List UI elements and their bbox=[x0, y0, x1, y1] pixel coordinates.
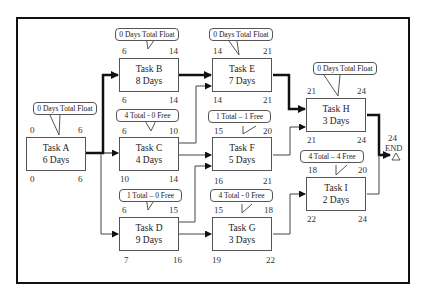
task-name: Task C bbox=[136, 142, 163, 154]
late-start-task-h: 21 bbox=[307, 135, 316, 145]
late-finish-task-d: 16 bbox=[173, 255, 182, 265]
early-finish-task-b: 14 bbox=[169, 46, 178, 56]
task-node-h[interactable]: Task H 3 Days bbox=[306, 98, 366, 132]
late-finish-task-c: 14 bbox=[169, 174, 178, 184]
task-name: Task G bbox=[228, 222, 255, 234]
late-finish-task-f: 21 bbox=[263, 176, 272, 186]
early-start-task-c: 6 bbox=[122, 126, 127, 136]
late-finish-task-a: 6 bbox=[78, 174, 83, 184]
end-time: 24 bbox=[388, 133, 397, 143]
late-start-task-a: 0 bbox=[30, 174, 35, 184]
early-start-task-d: 6 bbox=[122, 205, 127, 215]
task-duration: 2 Days bbox=[323, 194, 350, 206]
task-duration: 3 Days bbox=[229, 234, 256, 246]
task-name: Task A bbox=[43, 142, 70, 154]
late-finish-task-h: 24 bbox=[357, 135, 366, 145]
task-duration: 9 Days bbox=[136, 234, 163, 246]
float-callout-task-g: 4 Total - 0 Free bbox=[210, 189, 273, 202]
float-callout-task-a: 0 Days Total Float bbox=[33, 102, 97, 115]
task-node-e[interactable]: Task E 7 Days bbox=[212, 58, 272, 92]
late-start-task-i: 22 bbox=[307, 214, 316, 224]
float-callout-task-f: 1 Total – 1 Free bbox=[208, 110, 271, 123]
late-finish-task-g: 22 bbox=[266, 255, 275, 265]
float-callout-task-e: 0 Days Total Float bbox=[209, 28, 273, 41]
task-name: Task E bbox=[229, 63, 255, 75]
early-start-task-g: 15 bbox=[214, 205, 223, 215]
task-name: Task B bbox=[136, 63, 163, 75]
late-start-task-d: 7 bbox=[124, 255, 129, 265]
network-diagram: 0 Days Total Float 0 6 Task A 6 Days 0 6… bbox=[0, 0, 426, 301]
float-callout-task-h: 0 Days Total Float bbox=[313, 62, 377, 75]
early-finish-task-d: 15 bbox=[169, 205, 178, 215]
task-node-i[interactable]: Task I 2 Days bbox=[306, 177, 366, 211]
early-start-task-i: 18 bbox=[308, 165, 317, 175]
task-name: Task F bbox=[229, 142, 254, 154]
task-node-f[interactable]: Task F 5 Days bbox=[212, 137, 272, 171]
early-finish-task-c: 10 bbox=[169, 126, 178, 136]
task-duration: 6 Days bbox=[43, 154, 70, 166]
early-finish-task-a: 6 bbox=[78, 125, 83, 135]
early-finish-task-e: 21 bbox=[263, 46, 272, 56]
early-start-task-e: 14 bbox=[213, 46, 222, 56]
late-start-task-b: 6 bbox=[122, 95, 127, 105]
early-start-task-a: 0 bbox=[30, 125, 35, 135]
task-node-b[interactable]: Task B 8 Days bbox=[119, 58, 179, 92]
late-finish-task-e: 21 bbox=[263, 95, 272, 105]
task-duration: 5 Days bbox=[229, 154, 256, 166]
task-name: Task D bbox=[135, 222, 162, 234]
late-start-task-e: 14 bbox=[213, 95, 222, 105]
float-callout-task-c: 4 Total - 0 Free bbox=[116, 109, 179, 122]
task-node-g[interactable]: Task G 3 Days bbox=[212, 217, 272, 251]
float-callout-task-i: 4 Total – 4 Free bbox=[300, 150, 364, 163]
task-duration: 7 Days bbox=[229, 75, 256, 87]
task-node-a[interactable]: Task A 6 Days bbox=[26, 137, 86, 171]
late-start-task-f: 16 bbox=[214, 176, 223, 186]
task-node-c[interactable]: Task C 4 Days bbox=[119, 137, 179, 171]
task-duration: 8 Days bbox=[136, 75, 163, 87]
early-start-task-b: 6 bbox=[122, 46, 127, 56]
early-start-task-f: 15 bbox=[214, 126, 223, 136]
late-finish-task-i: 24 bbox=[358, 214, 367, 224]
late-start-task-g: 19 bbox=[212, 255, 221, 265]
early-finish-task-g: 18 bbox=[264, 205, 273, 215]
late-start-task-c: 10 bbox=[120, 174, 129, 184]
early-start-task-h: 21 bbox=[307, 86, 316, 96]
float-callout-task-b: 0 Days Total Float bbox=[115, 28, 179, 41]
late-finish-task-b: 14 bbox=[169, 95, 178, 105]
task-name: Task I bbox=[324, 182, 347, 194]
early-finish-task-f: 20 bbox=[263, 126, 272, 136]
task-name: Task H bbox=[322, 103, 349, 115]
task-node-d[interactable]: Task D 9 Days bbox=[119, 217, 179, 251]
end-label: END bbox=[385, 143, 402, 153]
early-finish-task-h: 24 bbox=[357, 86, 366, 96]
early-finish-task-i: 20 bbox=[358, 165, 367, 175]
task-duration: 3 Days bbox=[323, 115, 350, 127]
task-duration: 4 Days bbox=[136, 154, 163, 166]
float-callout-task-d: 1 Total – 0 Free bbox=[119, 189, 182, 202]
